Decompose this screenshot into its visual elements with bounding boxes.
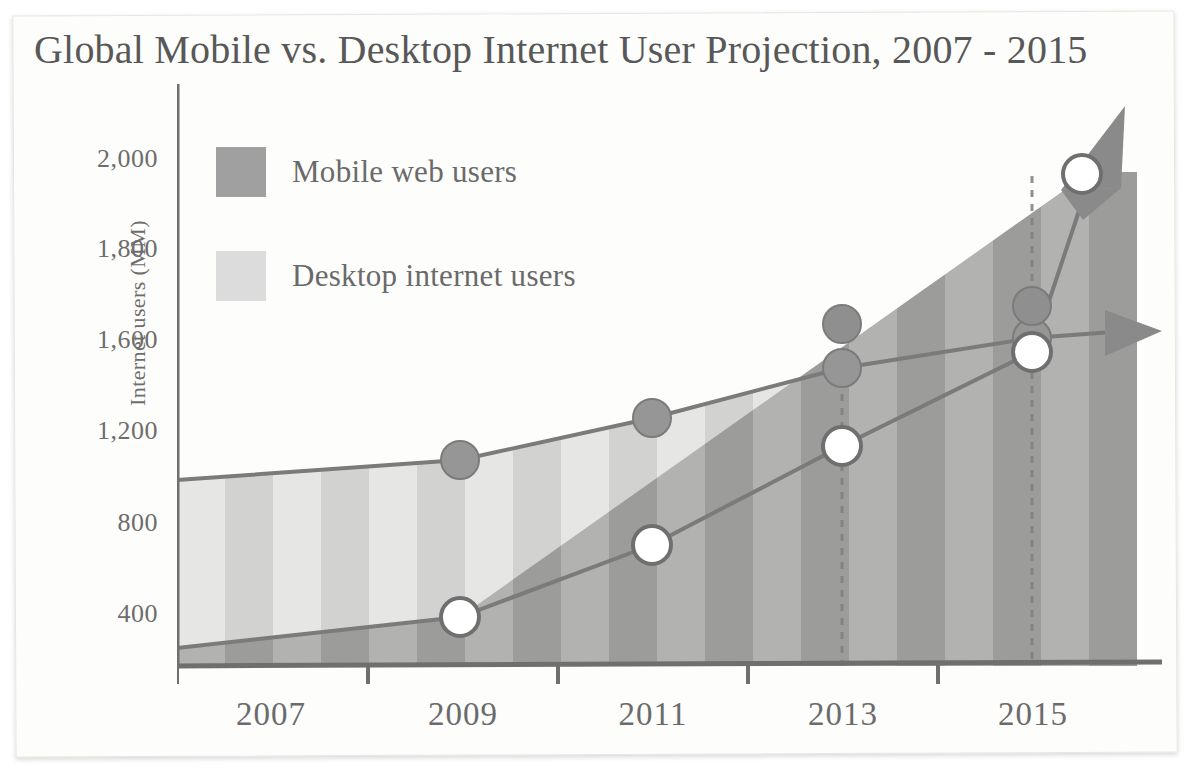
data-point-mobile-2013 — [1013, 333, 1051, 371]
y-tick-400: 400 — [38, 599, 158, 629]
x-tick-2007: 2007 — [196, 696, 346, 733]
legend-label-desktop: Desktop internet users — [292, 258, 576, 294]
y-tick-1800: 1,800 — [38, 234, 158, 264]
data-point-desktop-2013b — [823, 305, 861, 343]
legend-label-mobile: Mobile web users — [292, 154, 517, 190]
data-point-desktop-2015 — [1013, 287, 1051, 325]
legend-item-mobile: Mobile web users — [216, 146, 576, 198]
y-tick-2000: 2,000 — [38, 144, 158, 174]
legend-swatch-desktop — [216, 251, 266, 301]
chart-page: Global Mobile vs. Desktop Internet User … — [0, 0, 1196, 777]
legend-swatch-mobile — [216, 147, 266, 197]
legend-item-desktop: Desktop internet users — [216, 250, 576, 302]
page-title: Global Mobile vs. Desktop Internet User … — [34, 27, 1164, 73]
data-point-mobile-2011 — [823, 427, 861, 465]
x-tick-2013: 2013 — [768, 696, 918, 733]
x-tick-2009: 2009 — [388, 696, 538, 733]
data-point-desktop-2009 — [633, 399, 671, 437]
y-tick-800: 800 — [38, 508, 158, 538]
data-point-desktop-2011 — [823, 349, 861, 387]
data-point-desktop-2007 — [441, 441, 479, 479]
chart-content: Global Mobile vs. Desktop Internet User … — [0, 0, 1196, 777]
data-point-mobile-2015 — [1063, 155, 1101, 193]
x-tick-2011: 2011 — [578, 696, 728, 733]
legend: Mobile web users Desktop internet users — [216, 146, 576, 354]
y-tick-1200: 1,200 — [38, 416, 158, 446]
data-point-mobile-2007 — [441, 598, 479, 636]
y-tick-1600: 1,600 — [38, 325, 158, 355]
x-tick-2015: 2015 — [958, 696, 1108, 733]
data-point-mobile-2009 — [633, 526, 671, 564]
